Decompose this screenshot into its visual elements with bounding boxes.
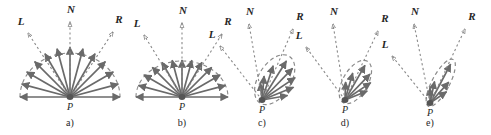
reflection-vector-label: R xyxy=(467,10,475,22)
reflectance-distribution-figure: NLRPa)NLRPb)NLRPc)NLRPd)NLRPe) xyxy=(0,0,491,135)
reflected-ray-arrow xyxy=(262,61,286,100)
panel-caption: c) xyxy=(258,117,266,129)
surface-point-label: P xyxy=(341,104,348,115)
figure-canvas: NLRPa)NLRPb)NLRPc)NLRPd)NLRPe) xyxy=(0,0,491,135)
light-vector-label: L xyxy=(208,28,216,40)
normal-vector-label: N xyxy=(66,3,76,15)
light-vector-line xyxy=(392,56,430,103)
panel-e: NLRPe) xyxy=(381,5,476,129)
panels-group: NLRPa)NLRPb)NLRPc)NLRPd)NLRPe) xyxy=(17,3,476,129)
panel-caption: e) xyxy=(426,117,434,129)
surface-point-label: P xyxy=(66,101,73,112)
light-vector-line xyxy=(220,46,262,100)
reflection-vector-label: R xyxy=(380,12,388,24)
panel-caption: b) xyxy=(178,117,186,129)
light-vector-line xyxy=(306,47,345,100)
surface-point-marker xyxy=(259,97,266,103)
reflection-vector-label: R xyxy=(114,13,122,25)
panel-a: NLRPa) xyxy=(17,3,123,129)
panel-b: NLRPb) xyxy=(133,4,232,129)
light-vector-label: L xyxy=(295,29,303,41)
reflection-vector-label: R xyxy=(223,15,231,27)
normal-vector-label: N xyxy=(178,4,188,16)
surface-point-marker xyxy=(179,94,186,100)
light-vector-label: L xyxy=(133,17,141,29)
reflection-vector-label: R xyxy=(295,10,303,22)
surface-point-marker xyxy=(67,94,74,100)
panel-caption: a) xyxy=(66,117,74,129)
normal-vector-label: N xyxy=(329,5,339,17)
light-vector-label: L xyxy=(381,38,389,50)
normal-vector-label: N xyxy=(245,5,255,17)
light-vector-label: L xyxy=(17,15,25,27)
normal-vector-line xyxy=(249,24,262,100)
surface-point-label: P xyxy=(258,104,265,115)
surface-point-marker xyxy=(342,97,349,103)
panel-c: NLRPc) xyxy=(208,5,304,129)
panel-caption: d) xyxy=(341,117,349,129)
normal-vector-label: N xyxy=(410,5,420,17)
surface-point-marker xyxy=(427,100,434,106)
surface-point-label: P xyxy=(178,101,185,112)
reflection-vector-line xyxy=(430,29,465,103)
panel-d: NLRPd) xyxy=(295,5,389,129)
normal-vector-line xyxy=(333,24,345,100)
